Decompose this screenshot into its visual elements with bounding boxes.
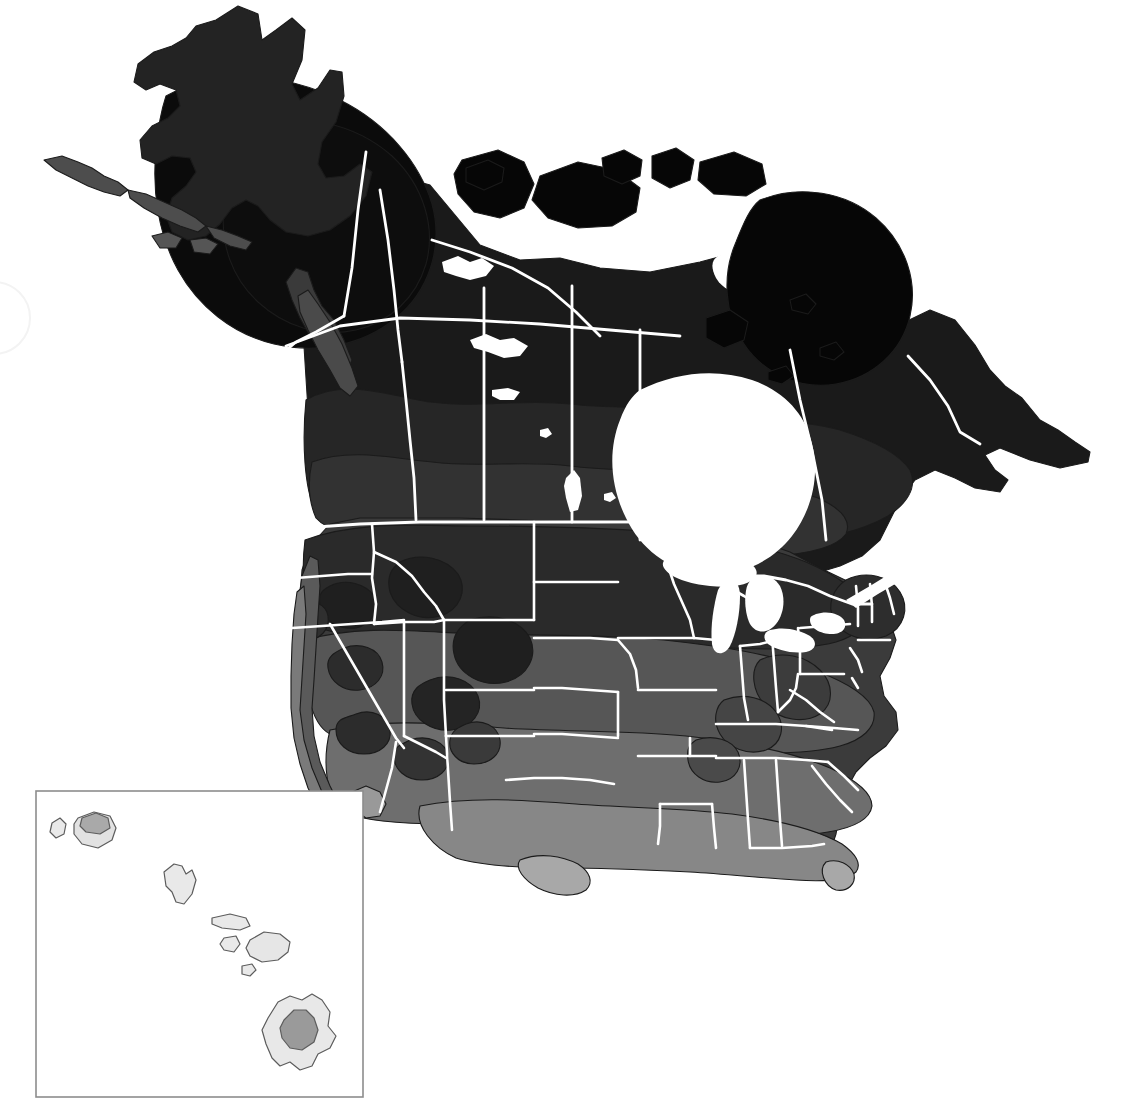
gulf-of-st-lawrence: [900, 532, 985, 589]
devon-island: [698, 152, 766, 196]
alaska-region: [44, 6, 372, 396]
hawaii-inset-group: [36, 791, 363, 1097]
map-canvas: Zone 1Zone 2Zone 3Zone 4Zone 5Zone 6Zone…: [0, 0, 1123, 1117]
north-america-zone-map: [0, 0, 1123, 1117]
scan-artifact: [0, 282, 30, 354]
somerset-island: [652, 148, 694, 188]
